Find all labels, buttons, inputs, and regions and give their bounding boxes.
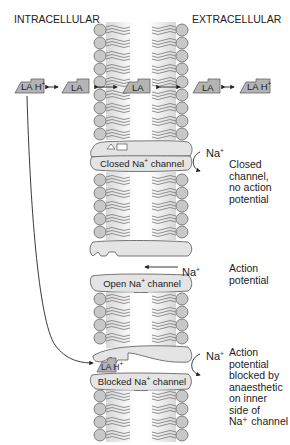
closed-channel-label: Closed Na+ channel — [97, 158, 187, 169]
closed-channel-note: Closedchannel,no actionpotential — [229, 159, 272, 205]
blocked-channel-note: Actionpotentialblocked byanaestheticon i… — [229, 347, 288, 428]
closed-na-bounce-arrow — [193, 152, 200, 171]
lipid-bilayer-bottom — [94, 390, 188, 442]
la-membrane-label: LA — [132, 82, 144, 94]
intracellular-header: INTRACELLULAR — [14, 13, 100, 25]
la-h-intracellular-label: LA H+ — [21, 81, 45, 93]
extracellular-header: EXTRACELLULAR — [192, 13, 281, 25]
lipid-bilayer-middle — [94, 172, 188, 240]
drug-path-arrow — [27, 96, 93, 363]
blocked-channel-label: Blocked Na+ channel — [92, 376, 192, 387]
open-channel-label: Open Na+ channel — [97, 278, 187, 289]
na-ion-open: Na+ — [182, 266, 200, 278]
lipid-bilayer-lower — [94, 292, 188, 348]
open-channel-note: Actionpotential — [229, 263, 269, 286]
la-intracellular-label: LA — [71, 82, 83, 94]
la-h-extracellular-label: LA H+ — [247, 81, 271, 93]
na-ion-closed: Na+ — [206, 147, 224, 159]
blocked-na-bounce-arrow — [192, 354, 200, 375]
la-extracellular-label: LA — [202, 82, 214, 94]
na-ion-blocked: Na+ — [206, 350, 224, 362]
bound-la-h-label: LA H+ — [101, 361, 123, 373]
